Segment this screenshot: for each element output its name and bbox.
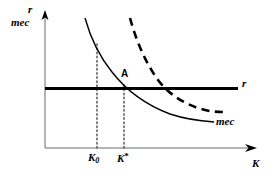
x-axis [45,144,257,152]
mec-curve-label: mec [216,116,234,127]
intersection-point-label-a: A [121,69,128,79]
y-axis [42,10,49,148]
x-tick-label-kstar: K* [117,152,129,164]
interest-rate-line-label: r [242,78,246,89]
economics-diagram-figure: r mec K r mec A K0 K* [0,0,277,182]
plot-canvas [0,0,277,182]
x-tick-k0-subscript: 0 [95,156,99,165]
x-axis-label-k: K [252,158,259,169]
y-axis-label-r: r [28,4,32,15]
mec-curve-dashed [130,18,226,112]
x-tick-label-k0: K0 [88,152,99,165]
x-tick-kstar-superscript: * [124,151,129,161]
y-axis-label-mec: mec [11,17,29,28]
